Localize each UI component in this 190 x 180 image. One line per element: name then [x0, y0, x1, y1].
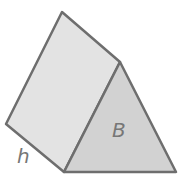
base-label: B: [112, 118, 126, 142]
prism-figure: h B: [0, 0, 190, 180]
height-label: h: [17, 144, 30, 168]
triangular-prism-diagram: h B: [0, 0, 190, 180]
